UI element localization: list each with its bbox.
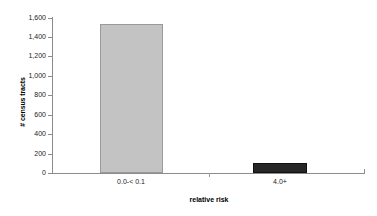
y-tick-mark <box>48 173 52 174</box>
y-axis-title: # census tracts <box>16 22 30 182</box>
x-tick-label-category-1: 4.0+ <box>235 177 325 186</box>
y-tick-mark <box>48 95 52 96</box>
y-tick-label: 1,000 <box>6 72 46 80</box>
bar-category-1 <box>253 163 307 173</box>
y-tick-mark <box>48 18 52 19</box>
x-tick-label-category-0: 0.0-< 0.1 <box>86 177 176 186</box>
x-tick-mark <box>209 173 210 177</box>
y-tick-label: 400 <box>6 130 46 138</box>
y-tick-mark <box>48 134 52 135</box>
y-axis-line <box>52 17 53 174</box>
x-axis-title: relative risk <box>53 195 365 205</box>
y-tick-label: 1,400 <box>6 33 46 41</box>
y-tick-mark <box>48 76 52 77</box>
y-tick-mark <box>48 115 52 116</box>
bar-category-0 <box>100 24 163 173</box>
y-tick-label: 0 <box>6 169 46 177</box>
y-tick-mark <box>48 56 52 57</box>
x-axis-end-tick <box>364 169 365 174</box>
y-tick-label: 1,600 <box>6 14 46 22</box>
bar-chart: # census tracts 1,600 1,400 1,200 1,000 … <box>0 0 377 216</box>
y-tick-label: 800 <box>6 91 46 99</box>
y-tick-label: 1,200 <box>6 52 46 60</box>
y-tick-label: 600 <box>6 111 46 119</box>
y-tick-mark <box>48 154 52 155</box>
y-tick-label: 200 <box>6 150 46 158</box>
y-tick-mark <box>48 37 52 38</box>
